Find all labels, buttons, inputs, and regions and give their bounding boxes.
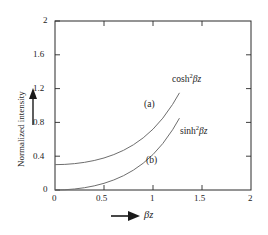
cosh-label-base: cosh	[172, 74, 189, 84]
x-tick-label-0: 0	[52, 193, 57, 203]
cosh-label-suffix: βz	[193, 74, 201, 84]
y-tick-label-0-4: 0.4	[33, 151, 44, 161]
curve-a-label: (a)	[144, 99, 155, 109]
chart-figure: 2 1.6 1.2 0.8 0.4 0 0 0.5 1 1.5 2 Normal…	[0, 0, 268, 235]
sinh-label-base: sinh	[180, 126, 196, 136]
x-axis-title: βz	[144, 209, 153, 220]
y-tick-label-0-8: 0.8	[33, 117, 44, 127]
y-tick-label-1-6: 1.6	[33, 49, 44, 59]
sinh-label: sinh2βz	[180, 124, 208, 136]
x-axis-title-text: βz	[144, 209, 153, 220]
x-tick-label-2: 2	[248, 193, 253, 203]
y-tick-label-0: 0	[43, 184, 48, 194]
curve-b-label: (b)	[146, 155, 157, 165]
x-tick-label-1-5: 1.5	[194, 193, 205, 203]
y-tick-label-2: 2	[43, 15, 48, 25]
cosh-label: cosh2βz	[172, 72, 201, 84]
x-tick-label-1: 1	[150, 193, 155, 203]
x-tick-label-0-5: 0.5	[96, 193, 107, 203]
sinh-label-suffix: βz	[199, 126, 207, 136]
x-axis-right-arrow-icon	[111, 211, 140, 221]
y-tick-label-1-2: 1.2	[33, 83, 44, 93]
y-axis-title: Normalized intensity	[16, 91, 26, 167]
